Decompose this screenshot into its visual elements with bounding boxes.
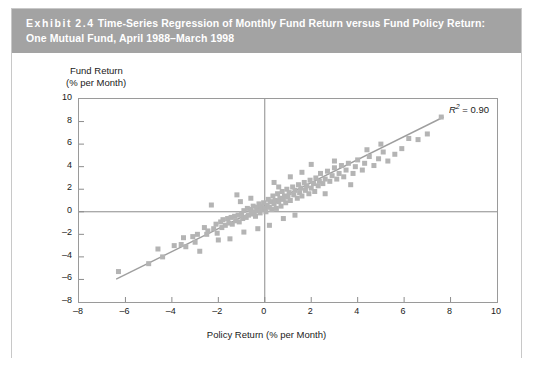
scatter-point: [255, 226, 260, 231]
scatter-point: [263, 209, 268, 214]
x-tick-label: 4: [342, 306, 372, 316]
r-symbol: R: [449, 104, 456, 115]
y-tick-label: –2: [46, 227, 72, 237]
scatter-point: [209, 203, 214, 208]
y-tick-label: –8: [46, 295, 72, 305]
scatter-point: [287, 190, 292, 195]
scatter-point: [220, 217, 225, 222]
exhibit-title-line-1: Exhibit 2.4 Time-Series Regression of Mo…: [26, 16, 507, 31]
scatter-point: [323, 177, 328, 182]
scatter-point: [155, 246, 160, 251]
scatter-point: [348, 182, 353, 187]
scatter-point: [275, 191, 280, 196]
scatter-point: [288, 174, 293, 179]
exhibit-label: Exhibit: [26, 17, 72, 29]
scatter-point: [360, 168, 365, 173]
scatter-point: [181, 235, 186, 240]
x-tick-label: 6: [388, 306, 418, 316]
y-axis-title-line-2: (% per Month): [66, 77, 126, 88]
scatter-point: [276, 184, 281, 189]
scatter-point: [325, 169, 330, 174]
scatter-point: [346, 161, 351, 166]
scatter-point: [341, 174, 346, 179]
scatter-point: [197, 249, 202, 254]
y-axis-title: Fund Return (% per Month): [66, 65, 126, 89]
scatter-point: [334, 177, 339, 182]
y-axis-title-line-1: Fund Return: [66, 65, 126, 77]
scatter-point: [399, 146, 404, 151]
scatter-point: [195, 232, 200, 237]
scatter-point: [288, 198, 293, 203]
scatter-point: [205, 228, 210, 233]
x-tick-label: –2: [202, 306, 232, 316]
scatter-point: [238, 199, 243, 204]
scatter-point: [299, 170, 304, 175]
scatter-point: [312, 189, 317, 194]
scatter-point: [339, 163, 344, 168]
exhibit-title-text-1: Time-Series Regression of Monthly Fund R…: [98, 17, 485, 29]
scatter-point: [318, 171, 323, 176]
scatter-point: [274, 206, 279, 211]
scatter-point: [267, 223, 272, 228]
x-tick-label: –4: [156, 306, 186, 316]
x-axis-title: Policy Return (% per Month): [12, 329, 521, 340]
scatter-point: [353, 164, 358, 169]
scatter-point: [364, 147, 369, 152]
scatter-point: [327, 179, 332, 184]
scatter-point: [376, 156, 381, 161]
scatter-point: [146, 261, 151, 266]
scatter-point: [344, 168, 349, 173]
scatter-point: [425, 131, 430, 136]
scatter-point: [367, 154, 372, 159]
y-tick-label: 2: [46, 182, 72, 192]
scatter-point: [330, 173, 335, 178]
scatter-point: [323, 191, 328, 196]
scatter-point: [215, 231, 220, 236]
y-tick-label: 0: [46, 205, 72, 215]
scatter-point: [311, 181, 316, 186]
scatter-point: [304, 183, 309, 188]
exhibit-title-line-2: One Mutual Fund, April 1988–March 1998: [26, 31, 507, 46]
scatter-point: [270, 193, 275, 198]
scatter-point: [283, 200, 288, 205]
scatter-point: [320, 181, 325, 186]
scatter-point: [280, 189, 285, 194]
scatter-point: [332, 165, 337, 170]
scatter-point: [292, 213, 297, 218]
scatter-point: [309, 162, 314, 167]
scatter-point: [272, 180, 277, 185]
scatter-point: [306, 191, 311, 196]
scatter-point: [392, 152, 397, 157]
scatter-markers: [116, 115, 444, 275]
y-tick-label: –6: [46, 272, 72, 282]
x-tick-label: –8: [63, 306, 93, 316]
scatter-point: [299, 193, 304, 198]
scatter-point: [160, 254, 165, 259]
scatter-point: [281, 216, 286, 221]
y-tick-label: 4: [46, 160, 72, 170]
scatter-point: [371, 163, 376, 168]
scatter-plot-svg: [79, 99, 497, 302]
scatter-point: [172, 243, 177, 248]
y-tick-label: 8: [46, 115, 72, 125]
plot-frame: R2 = 0.90: [78, 98, 498, 303]
scatter-point: [416, 137, 421, 142]
scatter-point: [385, 159, 390, 164]
scatter-point: [337, 171, 342, 176]
r-value: = 0.90: [460, 104, 489, 115]
scatter-point: [406, 136, 411, 141]
x-tick-label: 10: [481, 306, 511, 316]
scatter-point: [439, 115, 444, 120]
scatter-point: [269, 207, 274, 212]
scatter-point: [216, 237, 221, 242]
scatter-point: [351, 171, 356, 176]
scatter-point: [116, 269, 121, 274]
x-tick-label: 0: [249, 306, 279, 316]
exhibit-number: 2.4: [75, 17, 94, 29]
scatter-point: [183, 244, 188, 249]
scatter-point: [295, 196, 300, 201]
exhibit-header-band: Exhibit 2.4 Time-Series Regression of Mo…: [12, 9, 521, 53]
scatter-point: [316, 183, 321, 188]
plot-card: Fund Return (% per Month) R2 = 0.90 –8–6…: [12, 53, 521, 358]
y-tick-label: 10: [46, 92, 72, 102]
